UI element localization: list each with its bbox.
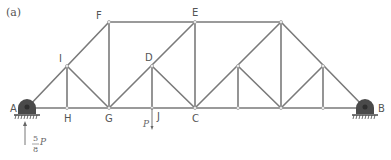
joint-E <box>194 21 197 24</box>
joint-L <box>280 107 283 110</box>
joint-F <box>108 21 111 24</box>
joint-O <box>322 65 325 68</box>
member-L-O <box>281 66 323 108</box>
load-symbol: P <box>142 119 150 129</box>
node-label-D: D <box>145 52 153 63</box>
node-label-G: G <box>105 113 113 124</box>
member-D-C <box>152 66 195 108</box>
node-label-C: C <box>192 113 199 124</box>
node-label-F: F <box>96 10 102 21</box>
node-label-I: I <box>59 53 62 64</box>
node-label-E: E <box>192 7 198 18</box>
joint-C <box>194 107 197 110</box>
joint-Q <box>280 21 283 24</box>
node-label-A: A <box>10 103 17 114</box>
reaction-symbol: P <box>39 137 47 147</box>
node-label-H: H <box>64 113 72 124</box>
joint-D <box>151 65 154 68</box>
reaction-arrow-up-icon <box>23 121 27 145</box>
joint-H <box>66 107 69 110</box>
pin-support-B-icon <box>352 99 378 119</box>
joint-G <box>108 107 111 110</box>
node-label-J: J <box>156 111 160 122</box>
reaction-numerator: 5 <box>33 134 38 143</box>
load-arrow-down-icon <box>151 108 154 130</box>
joint-M <box>322 107 325 110</box>
joint-N <box>237 65 240 68</box>
joint-K <box>237 107 240 110</box>
panel-label: (a) <box>6 6 21 19</box>
member-I-G <box>67 66 109 108</box>
reaction-denominator: 8 <box>33 145 38 154</box>
truss-diagram: (a) <box>0 0 391 160</box>
member-N-L <box>238 66 281 108</box>
pin-support-A-icon <box>14 99 40 119</box>
joint-I <box>66 65 69 68</box>
node-label-B: B <box>378 103 385 114</box>
truss-members <box>27 22 365 108</box>
